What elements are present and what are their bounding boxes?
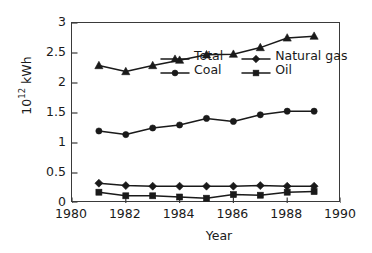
plot-area: TotalNatural gasCoalOil — [71, 22, 340, 202]
x-tick-label: 1986 — [202, 206, 262, 221]
x-tick-label: 1988 — [256, 206, 316, 221]
legend-marker-circle-icon — [160, 64, 190, 76]
legend-marker-triangle-icon — [160, 50, 190, 62]
y-axis-title-exponent: 12 — [17, 88, 27, 99]
legend-label: Coal — [194, 63, 222, 76]
y-axis-title: 1012 kWh — [19, 36, 34, 136]
legend-label: Oil — [275, 63, 292, 76]
x-tick-label: 1980 — [41, 206, 101, 221]
y-tick-label: 0.5 — [46, 166, 66, 179]
x-tick-label: 1984 — [149, 206, 209, 221]
chart-figure: 1012 kWh 00.511.522.53 19801982198419861… — [0, 0, 372, 253]
series-coal — [96, 108, 317, 138]
y-axis-title-base: 10 — [19, 99, 34, 115]
x-tick-label: 1982 — [95, 206, 155, 221]
legend-label: Total — [194, 49, 223, 62]
y-tick-label: 2.5 — [46, 46, 66, 59]
y-tick-label: 3 — [58, 16, 66, 29]
y-tick-label: 2 — [58, 76, 66, 89]
legend-label: Natural gas — [275, 49, 347, 62]
y-tick-label: 1.5 — [46, 106, 66, 119]
series-natural-gas — [95, 179, 318, 190]
y-axis-title-unit: kWh — [19, 56, 34, 88]
x-axis-title: Year — [0, 228, 372, 243]
legend-marker-diamond-icon — [241, 50, 271, 62]
x-tick-label: 1990 — [310, 206, 370, 221]
legend-item-coal[interactable]: Coal — [160, 63, 223, 76]
legend-item-oil[interactable]: Oil — [241, 63, 347, 76]
y-tick-label: 1 — [58, 136, 66, 149]
legend-item-natural-gas[interactable]: Natural gas — [241, 49, 347, 62]
chart-legend: TotalNatural gasCoalOil — [160, 49, 347, 76]
legend-item-total[interactable]: Total — [160, 49, 223, 62]
legend-marker-square-icon — [241, 64, 271, 76]
